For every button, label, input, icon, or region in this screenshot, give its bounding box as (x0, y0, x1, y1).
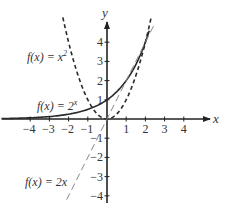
y-tick-label: −1 (90, 131, 103, 145)
x-tick-label: 3 (162, 122, 168, 136)
x-tick-label: −4 (23, 122, 36, 136)
label-2x: f(x) = 2x (25, 175, 68, 189)
function-graph: −4−3−2−11234 −4−3−2−11234 x y f(x) = x2 … (0, 0, 229, 213)
y-tick-label: −4 (90, 189, 103, 203)
y-tick-label: −3 (90, 170, 103, 184)
x-tick-label: −2 (61, 122, 74, 136)
x-tick-label: 1 (123, 122, 129, 136)
x-tick-label: −3 (42, 122, 55, 136)
label-x-squared: f(x) = x2 (27, 49, 67, 64)
y-tick-label: 2 (97, 74, 103, 88)
x-tick-label: 4 (181, 122, 187, 136)
x-tick-label: 2 (142, 122, 148, 136)
x-axis-label: x (212, 111, 219, 126)
label-2-power-x: f(x) = 2x (37, 98, 78, 113)
y-tick-label: 3 (97, 54, 103, 68)
y-axis-label: y (100, 5, 108, 20)
y-tick-label: 4 (97, 35, 103, 49)
y-tick-label: −2 (90, 150, 103, 164)
